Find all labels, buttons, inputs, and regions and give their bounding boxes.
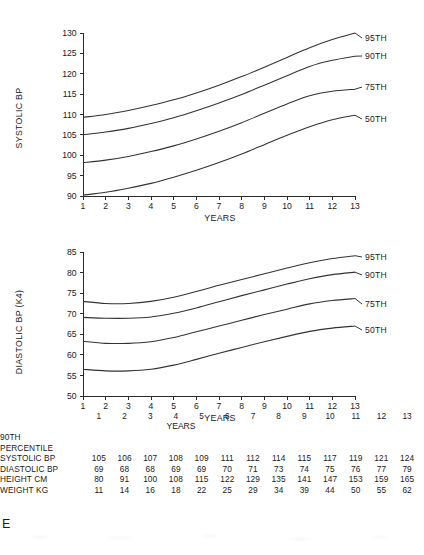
datatable-column-header: 7 xyxy=(243,411,263,421)
datatable-column-header: 9 xyxy=(294,411,314,421)
y-tick-label: 85 xyxy=(67,247,77,257)
table-cell: 117 xyxy=(317,453,343,464)
y-tick-label: 125 xyxy=(62,48,77,58)
table-row: SYSTOLIC BP10510610710810911111211411511… xyxy=(0,453,420,464)
datatable-column-header: 6 xyxy=(217,411,237,421)
table-cell: 44 xyxy=(317,485,343,496)
table-cell: 111 xyxy=(214,453,240,464)
table-cell: 153 xyxy=(343,474,369,485)
datatable-column-header: 10 xyxy=(320,411,340,421)
x-tick-label: 12 xyxy=(328,201,338,211)
diastolic-y-axis-title: DIASTOLIC BP (K4) xyxy=(14,290,24,374)
percentile-curve-50th xyxy=(83,326,355,371)
table-cell: 75 xyxy=(317,464,343,475)
series-label-50th: 50TH xyxy=(365,114,387,124)
x-tick-label: 9 xyxy=(262,401,267,411)
table-cell: 115 xyxy=(189,474,215,485)
systolic-y-ticks xyxy=(80,33,84,196)
y-tick-label: 55 xyxy=(67,371,77,381)
datatable-column-header: 3 xyxy=(140,411,160,421)
table-cell: 25 xyxy=(214,485,240,496)
table-cell: 22 xyxy=(189,485,215,496)
datatable-header-line: 90TH xyxy=(0,432,86,443)
diastolic-y-ticks xyxy=(80,252,84,396)
scan-bleed-artifact xyxy=(0,531,424,555)
table-cell: 34 xyxy=(266,485,292,496)
table-cell: 124 xyxy=(394,453,420,464)
percentile-data-table: 90THPERCENTILESYSTOLIC BP105106107108109… xyxy=(0,432,424,496)
table-cell: 80 xyxy=(86,474,112,485)
y-tick-label: 100 xyxy=(62,150,77,160)
table-cell: 50 xyxy=(343,485,369,496)
x-tick-label: 10 xyxy=(282,201,292,211)
table-row-label: SYSTOLIC BP xyxy=(0,453,86,464)
systolic-curves xyxy=(83,33,355,195)
table-cell: 141 xyxy=(292,474,318,485)
panel-letter: E xyxy=(2,518,10,531)
table-cell: 55 xyxy=(369,485,395,496)
table-cell: 108 xyxy=(163,453,189,464)
x-tick-label: 1 xyxy=(81,201,86,211)
x-tick-label: 3 xyxy=(126,201,131,211)
series-label-50th: 50TH xyxy=(365,325,387,335)
diastolic-bp-chart: 5055606570758085 12345678910111213 95TH9… xyxy=(0,232,424,430)
table-cell: 129 xyxy=(240,474,266,485)
table-row-label: DIASTOLIC BP xyxy=(0,464,86,475)
systolic-series-labels: 95TH90TH75TH50TH xyxy=(355,33,387,124)
percentile-curve-75th xyxy=(83,89,355,162)
diastolic-series-labels: 95TH90TH75TH50TH xyxy=(355,252,387,335)
y-tick-label: 120 xyxy=(62,69,77,79)
datatable-header-filler xyxy=(86,432,420,453)
diastolic-chart-svg: 5055606570758085 12345678910111213 95TH9… xyxy=(0,232,424,430)
diastolic-x-tick-labels: 12345678910111213 xyxy=(81,401,360,411)
table-cell: 77 xyxy=(369,464,395,475)
table-cell: 29 xyxy=(240,485,266,496)
series-label-95th: 95TH xyxy=(365,33,387,43)
systolic-chart-svg: 9095100105110115120125130 12345678910111… xyxy=(0,0,424,232)
datatable-column-header: 2 xyxy=(115,411,135,421)
x-tick-label: 7 xyxy=(217,401,222,411)
x-tick-label: 6 xyxy=(194,401,199,411)
table-row-label: HEIGHT CM xyxy=(0,474,86,485)
x-tick-label: 8 xyxy=(239,201,244,211)
percentile-curve-50th xyxy=(83,115,355,195)
table-cell: 100 xyxy=(137,474,163,485)
table-cell: 109 xyxy=(189,453,215,464)
x-tick-label: 10 xyxy=(282,401,292,411)
datatable-header-label: 90THPERCENTILE xyxy=(0,432,86,453)
datatable-column-header: 11 xyxy=(346,411,366,421)
y-tick-label: 80 xyxy=(67,268,77,278)
table-cell: 105 xyxy=(86,453,112,464)
table-cell: 147 xyxy=(317,474,343,485)
datatable-column-header: 13 xyxy=(397,411,417,421)
table-cell: 69 xyxy=(86,464,112,475)
table-cell: 108 xyxy=(163,474,189,485)
table-cell: 107 xyxy=(137,453,163,464)
y-tick-label: 130 xyxy=(62,28,77,38)
datatable-column-header: 12 xyxy=(371,411,391,421)
table-cell: 62 xyxy=(394,485,420,496)
table-cell: 91 xyxy=(112,474,138,485)
table-cell: 135 xyxy=(266,474,292,485)
y-tick-label: 50 xyxy=(67,391,77,401)
percentile-curve-90th xyxy=(83,272,355,318)
diastolic-curves xyxy=(83,256,355,371)
systolic-axes xyxy=(80,33,356,200)
diastolic-y-tick-labels: 5055606570758085 xyxy=(67,247,77,401)
table-cell: 69 xyxy=(189,464,215,475)
table-row: WEIGHT KG11141618222529343944505562 xyxy=(0,485,420,496)
diastolic-axes xyxy=(80,252,356,400)
datatable-years-label: YEARS xyxy=(0,421,362,432)
y-tick-label: 70 xyxy=(67,309,77,319)
leader-line-90th xyxy=(355,272,362,275)
table-row-label: WEIGHT KG xyxy=(0,485,86,496)
leader-line-95th xyxy=(355,33,362,38)
table-cell: 73 xyxy=(266,464,292,475)
y-tick-label: 105 xyxy=(62,130,77,140)
datatable-header-line: PERCENTILE xyxy=(0,443,86,454)
x-tick-label: 7 xyxy=(217,201,222,211)
x-tick-label: 2 xyxy=(103,401,108,411)
series-label-90th: 90TH xyxy=(365,51,387,61)
y-tick-label: 65 xyxy=(67,329,77,339)
table-cell: 122 xyxy=(214,474,240,485)
